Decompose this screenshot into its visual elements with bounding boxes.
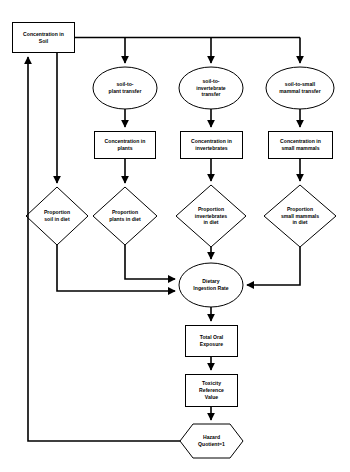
shape-concentration-invertebrates (181, 132, 243, 159)
edge-proportion-soil-to-dietary (57, 245, 175, 291)
shape-soil-to-invertebrate (179, 67, 243, 109)
shape-proportion-small-mammals (264, 185, 336, 247)
edge-hazard-quotient-feedback-to-soil (28, 57, 180, 441)
shape-hazard-quotient (180, 424, 243, 458)
flowchart-canvas (0, 0, 350, 472)
shape-soil-to-plant (93, 67, 157, 109)
shape-total-oral-exposure (186, 326, 238, 357)
flowchart-diagram: Concentration in Soil soil-to- plant tra… (0, 0, 350, 472)
shape-proportion-soil (26, 187, 88, 245)
edge-proportion-plants-to-dietary (125, 245, 175, 279)
shape-proportion-plants (93, 187, 157, 245)
shape-concentration-small-mammals (269, 132, 333, 159)
shape-concentration-plants (95, 132, 156, 159)
shape-proportion-invertebrates (176, 185, 246, 247)
shape-soil-to-small-mammal (266, 67, 334, 109)
shape-toxicity-reference-value (186, 375, 238, 407)
shape-concentration-soil (13, 23, 75, 53)
edge-proportion-small-mammals-to-dietary (247, 247, 300, 285)
shape-dietary-ingestion-rate (179, 263, 243, 307)
